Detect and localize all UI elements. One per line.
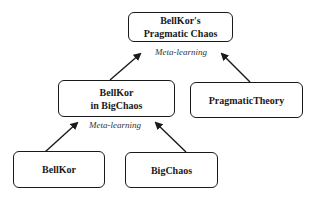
node-bellkor: BellKor [13,151,105,188]
node-bellkor-label: BellKor [42,163,76,176]
node-mid-line2: in BigChaos [91,99,143,112]
node-bigchaos-label: BigChaos [151,164,192,177]
arrow-bigchaos-to-mid [156,123,186,152]
node-bigchaos: BigChaos [125,152,218,188]
arrow-bellkor-to-mid [45,123,77,152]
node-pragmatic-theory: PragmaticTheory [190,82,303,118]
node-pragmatic-label: PragmaticTheory [209,94,285,107]
node-bellkors-pragmatic-chaos: BellKor's Pragmatic Chaos [128,12,233,42]
arrow-mid-to-root [110,54,140,80]
node-mid-line1: BellKor [91,86,143,99]
node-root-line1: BellKor's [144,14,218,27]
meta-learning-label-root: Meta-learning [155,47,207,57]
node-root-line2: Pragmatic Chaos [144,27,218,40]
meta-learning-label-mid: Meta-learning [89,120,141,130]
arrow-pragmatic-to-root [222,54,250,82]
node-bellkor-in-bigchaos: BellKor in BigChaos [58,80,175,117]
